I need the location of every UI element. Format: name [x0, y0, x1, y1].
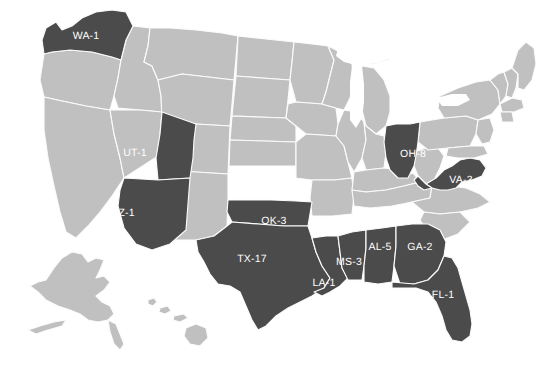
- state-kansas[interactable]: [229, 140, 296, 166]
- alaska-panhandle[interactable]: [108, 320, 124, 350]
- state-hawaii-big-island[interactable]: [184, 324, 208, 346]
- state-maryland[interactable]: [446, 146, 488, 158]
- alaska-aleutian-chain[interactable]: [28, 320, 66, 334]
- state-pennsylvania[interactable]: [418, 116, 478, 150]
- state-alabama[interactable]: [364, 226, 396, 284]
- state-hawaii-maui[interactable]: [173, 314, 188, 322]
- state-ohio[interactable]: [384, 122, 420, 178]
- state-south-dakota[interactable]: [232, 76, 290, 118]
- state-montana[interactable]: [144, 28, 238, 80]
- state-texas[interactable]: [196, 222, 330, 330]
- state-utah[interactable]: [156, 112, 196, 180]
- lake-huron: [388, 54, 412, 98]
- state-new-jersey[interactable]: [476, 118, 494, 144]
- state-alaska[interactable]: [30, 252, 114, 322]
- alaska-hawaii-group: [28, 252, 208, 350]
- map-svg: [0, 0, 557, 367]
- state-north-dakota[interactable]: [236, 36, 294, 80]
- state-hawaii-kauai[interactable]: [148, 298, 157, 306]
- state-connecticut[interactable]: [500, 112, 514, 122]
- us-choropleth-map: WA-1 UT-1 AZ-1 OK-3 TX-17 LA-1 MS-3 AL-5…: [0, 0, 557, 367]
- state-arkansas[interactable]: [310, 178, 354, 216]
- state-hawaii-oahu[interactable]: [159, 306, 171, 314]
- state-nebraska[interactable]: [230, 116, 296, 142]
